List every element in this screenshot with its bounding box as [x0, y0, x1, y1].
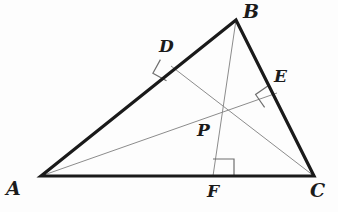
geometry-diagram: A B C D E F P — [0, 0, 338, 212]
point-label-e: E — [274, 68, 287, 85]
point-label-p: P — [197, 122, 210, 139]
point-label-f: F — [207, 183, 219, 200]
geometry-canvas — [0, 0, 338, 212]
segment-cd — [171, 66, 314, 176]
vertex-label-c: C — [310, 181, 325, 200]
point-label-d: D — [159, 38, 174, 55]
triangle-abc — [41, 20, 314, 176]
vertex-label-a: A — [6, 179, 21, 198]
right-angle-group — [153, 60, 269, 176]
vertex-label-b: B — [243, 2, 259, 21]
segment-ae — [41, 93, 277, 176]
cevian-group — [41, 20, 314, 176]
right-angle-at-f — [213, 159, 234, 176]
segment-bf — [213, 20, 236, 176]
